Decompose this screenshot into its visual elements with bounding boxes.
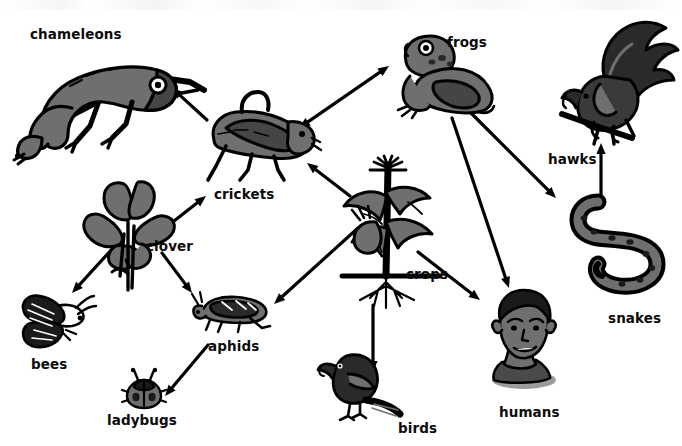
label-crops: crops bbox=[406, 268, 448, 282]
label-snakes: snakes bbox=[608, 312, 661, 326]
corn-plant-icon bbox=[330, 158, 450, 308]
clover-icon bbox=[80, 178, 180, 293]
scan-artifact-band bbox=[0, 0, 682, 10]
label-frogs: frogs bbox=[447, 36, 487, 50]
cricket-icon bbox=[196, 88, 321, 183]
snake-icon bbox=[560, 200, 675, 310]
label-birds: birds bbox=[398, 422, 437, 436]
label-crickets: crickets bbox=[214, 188, 274, 202]
label-clover: clover bbox=[146, 240, 193, 254]
label-aphids: aphids bbox=[208, 340, 259, 354]
aphid-icon bbox=[188, 288, 273, 336]
chameleon-icon bbox=[12, 38, 217, 163]
ladybug-icon bbox=[122, 368, 166, 410]
arrow-aphids-to-ladybugs bbox=[165, 345, 208, 396]
label-chameleons: chameleons bbox=[30, 28, 122, 42]
hawk-icon bbox=[560, 18, 680, 153]
bee-icon bbox=[18, 288, 96, 350]
arrow-frogs-to-snakes bbox=[470, 112, 556, 198]
food-web-diagram: chameleons crickets frogs hawks snakes c… bbox=[0, 0, 682, 446]
human-head-icon bbox=[478, 288, 566, 390]
label-humans: humans bbox=[499, 406, 560, 420]
label-ladybugs: ladybugs bbox=[107, 414, 177, 428]
label-bees: bees bbox=[31, 358, 67, 372]
bird-icon bbox=[318, 348, 403, 420]
arrow-frogs-to-humans bbox=[452, 118, 510, 288]
label-hawks: hawks bbox=[548, 153, 597, 167]
